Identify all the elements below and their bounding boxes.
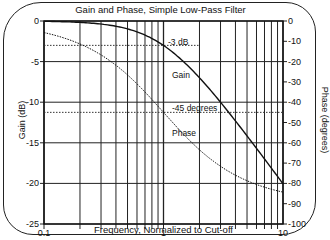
series-label-phase: Phase [172, 128, 196, 138]
x-tick-label: 10 [278, 228, 288, 238]
y-tick-label-right: -50 [288, 118, 301, 128]
y-tick-label-left: -15 [26, 138, 39, 148]
y-axis-label-right: Phase (degrees) [320, 75, 330, 165]
y-tick-label-right: -70 [288, 158, 301, 168]
x-tick-label: 1 [161, 228, 166, 238]
y-tick-label-right: -30 [288, 77, 301, 87]
annotation-3db: -3 dB [168, 37, 189, 47]
y-tick-label-right: -10 [288, 36, 301, 46]
y-tick-label-left: -5 [31, 57, 39, 67]
y-tick-label-right: 0 [288, 16, 293, 26]
y-tick-label-left: 0 [34, 16, 39, 26]
y-tick-label-right: -90 [288, 199, 301, 209]
y-tick-label-right: -20 [288, 57, 301, 67]
y-tick-label-left: -10 [26, 97, 39, 107]
y-tick-label-right: -100 [288, 219, 306, 229]
x-tick-label: 0.1 [38, 228, 51, 238]
y-tick-label-right: -60 [288, 138, 301, 148]
y-tick-label-right: -40 [288, 97, 301, 107]
y-tick-label-right: -80 [288, 178, 301, 188]
y-tick-label-left: -20 [26, 178, 39, 188]
annotation-45-degrees: -45 degrees [172, 103, 217, 113]
series-label-gain: Gain [172, 70, 190, 80]
